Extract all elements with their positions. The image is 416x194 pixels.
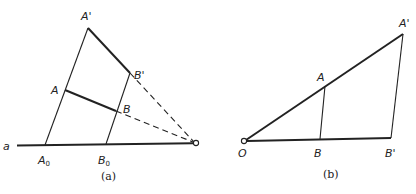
- dashed-b-prime-o: [130, 73, 194, 142]
- label-line-a: a: [3, 140, 10, 153]
- label-b: B: [314, 147, 322, 160]
- segment-a-prime-b-prime: [88, 28, 130, 73]
- label-a-prime: A': [80, 10, 92, 23]
- center-point-o: [241, 138, 246, 143]
- label-a0: A0: [37, 154, 50, 168]
- segment-o-b-prime: [247, 138, 391, 141]
- caption-a: (a): [101, 170, 116, 183]
- label-b: B: [123, 103, 131, 116]
- label-a: A: [316, 71, 325, 84]
- segment-a-prime-b-prime: [391, 34, 403, 138]
- label-a: A: [50, 84, 59, 97]
- figure-canvas: a A' B' A B A0 B0 (a) O A B A' B' (b): [0, 0, 416, 194]
- label-b-prime: B': [134, 69, 145, 82]
- center-point-o: [193, 140, 198, 145]
- label-a-prime: A': [398, 17, 410, 30]
- label-o: O: [238, 147, 247, 160]
- figure-b: O A B A' B' (b): [238, 17, 410, 181]
- label-b0: B0: [98, 154, 110, 168]
- caption-b: (b): [323, 168, 339, 181]
- label-b-prime: B': [385, 147, 396, 160]
- segment-a-b: [320, 86, 325, 139]
- segment-a-b: [65, 90, 116, 111]
- figure-a: a A' B' A B A0 B0 (a): [3, 10, 199, 183]
- line-a: [17, 143, 193, 145]
